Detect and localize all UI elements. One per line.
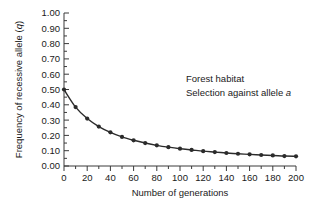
data-point <box>224 151 228 155</box>
y-tick-label: 0.90 <box>42 23 61 34</box>
line-chart: 1.00 0.90 0.80 0.70 0.60 0.50 0.40 0.30 … <box>0 0 335 204</box>
data-point <box>282 154 286 158</box>
data-point <box>294 154 298 158</box>
x-tick-label: 80 <box>152 172 163 183</box>
data-point <box>62 87 66 91</box>
y-axis-title-tail: ) <box>13 21 24 24</box>
x-tick-label: 180 <box>265 172 281 183</box>
data-point <box>236 152 240 156</box>
data-point <box>271 153 275 157</box>
x-tick-label: 20 <box>82 172 93 183</box>
x-axis-tick-labels: 0 20 40 60 80 100 120 140 160 180 200 <box>61 172 304 183</box>
y-tick-label: 0.20 <box>42 130 61 141</box>
series-line <box>64 90 296 157</box>
svg-text:Frequency of recessive allele: Frequency of recessive allele (q) <box>13 21 24 158</box>
series-group <box>62 87 298 158</box>
y-axis-title-plain: Frequency of recessive allele ( <box>13 28 24 158</box>
data-point <box>190 148 194 152</box>
y-tick-label: 0.80 <box>42 38 61 49</box>
x-axis-title: Number of generations <box>132 187 229 198</box>
annotation-line-2-plain: Selection against allele <box>186 87 286 98</box>
data-point <box>213 150 217 154</box>
y-axis-title: Frequency of recessive allele (q) <box>13 21 24 158</box>
data-point <box>97 124 101 128</box>
annotation-line-2-italic: a <box>286 87 291 98</box>
y-tick-label: 0.50 <box>42 84 61 95</box>
data-point <box>259 153 263 157</box>
data-point <box>166 145 170 149</box>
annotation-line-2: Selection against allele a <box>186 87 291 98</box>
data-point <box>74 105 78 109</box>
data-point <box>143 141 147 145</box>
chart-figure: 1.00 0.90 0.80 0.70 0.60 0.50 0.40 0.30 … <box>0 0 335 204</box>
x-tick-label: 0 <box>61 172 66 183</box>
series-markers <box>62 87 298 158</box>
data-point <box>201 149 205 153</box>
y-tick-label: 0.60 <box>42 69 61 80</box>
x-tick-label: 140 <box>218 172 234 183</box>
x-tick-label: 40 <box>105 172 116 183</box>
y-tick-label: 0.00 <box>42 160 61 171</box>
x-tick-label: 200 <box>288 172 304 183</box>
y-tick-label: 0.70 <box>42 53 61 64</box>
data-point <box>108 130 112 134</box>
y-tick-label: 0.10 <box>42 145 61 156</box>
annotation-line-1: Forest habitat <box>186 73 244 84</box>
x-tick-label: 120 <box>195 172 211 183</box>
data-point <box>132 138 136 142</box>
data-point <box>178 147 182 151</box>
x-tick-label: 60 <box>128 172 139 183</box>
data-point <box>248 152 252 156</box>
x-tick-label: 100 <box>172 172 188 183</box>
y-tick-label: 0.30 <box>42 115 61 126</box>
y-tick-label: 0.40 <box>42 99 61 110</box>
data-point <box>155 143 159 147</box>
data-point <box>120 135 124 139</box>
x-tick-label: 160 <box>242 172 258 183</box>
annotation-block: Forest habitat Selection against allele … <box>186 73 291 98</box>
y-axis-tick-labels: 1.00 0.90 0.80 0.70 0.60 0.50 0.40 0.30 … <box>42 7 61 171</box>
data-point <box>85 116 89 120</box>
y-tick-label: 1.00 <box>42 7 61 18</box>
